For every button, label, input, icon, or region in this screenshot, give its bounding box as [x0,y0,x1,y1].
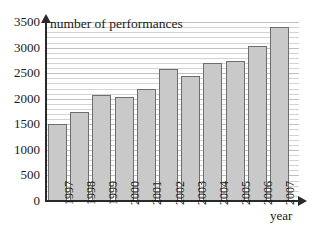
y-tick-label: 2500 [14,66,40,79]
y-tick-label: 3000 [14,41,40,54]
bar [270,27,289,201]
x-tick-label: 2005 [240,181,252,205]
x-axis-arrow-icon [298,196,307,206]
x-tick-label: 2002 [174,181,186,205]
y-tick-label: 1000 [14,143,40,156]
x-tick-label: 1997 [63,181,75,205]
x-tick-label: 2004 [218,181,230,205]
x-tick-label: 1999 [107,181,119,205]
bar-series [46,22,306,201]
y-axis-line [45,22,47,201]
x-tick-label: 2001 [151,181,163,205]
y-tick-label: 1500 [14,117,40,130]
x-tick-label: 2006 [262,181,274,205]
y-tick-label: 3500 [14,15,40,28]
bar [226,61,245,201]
x-tick-label: 2000 [129,181,141,205]
y-axis-title: number of performances [50,16,183,32]
y-tick-label: 0 [34,194,41,207]
bar [248,46,267,202]
x-tick-label: 2003 [196,181,208,205]
y-tick-label: 2000 [14,92,40,105]
plot-area [46,22,306,201]
x-tick-label: 1998 [85,181,97,205]
x-axis-title: year [270,208,292,224]
x-tick-label: 2007 [284,181,296,205]
bar-chart: 0500100015002000250030003500 19971998199… [0,0,316,251]
y-tick-label: 500 [21,168,41,181]
